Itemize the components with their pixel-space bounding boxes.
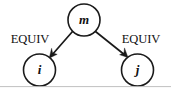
node-m-label: m (79, 12, 89, 27)
node-j: j (122, 54, 154, 86)
node-i: i (24, 54, 56, 86)
edge-label-m-to-j: EQUIV (122, 32, 160, 46)
diagram-canvas: m i j EQUIV EQUIV (0, 0, 171, 89)
edge-label-m-to-i: EQUIV (11, 32, 49, 46)
edge-line-m-to-i (52, 32, 73, 56)
equivalence-diagram: m i j EQUIV EQUIV (0, 0, 171, 89)
node-i-label: i (38, 62, 42, 77)
edge-m-to-i (49, 32, 72, 59)
node-m: m (68, 4, 100, 36)
